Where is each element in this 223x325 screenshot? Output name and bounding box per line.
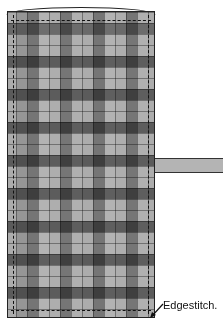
grid-line [8, 232, 154, 233]
grid-line [8, 188, 154, 189]
plaid-column-band [104, 12, 115, 317]
grid-line [8, 166, 154, 167]
grid-line [126, 12, 127, 317]
plaid-column-band [7, 12, 16, 317]
grid-line [8, 287, 154, 288]
grid-line [8, 122, 154, 123]
plaid-column-band [71, 12, 82, 317]
grid-line [8, 100, 154, 101]
grid-line [8, 276, 154, 277]
grid-line [38, 12, 39, 317]
grid-line [8, 56, 154, 57]
grid-line [8, 45, 154, 46]
grid-line [8, 111, 154, 112]
grid-line [60, 12, 61, 317]
grid-line [8, 265, 154, 266]
edgestitch-line [11, 20, 151, 21]
grid-line [8, 243, 154, 244]
grid-line [8, 177, 154, 178]
grid-line [8, 23, 154, 24]
grid-line [8, 144, 154, 145]
grid-line [8, 298, 154, 299]
grid-line [8, 210, 154, 211]
grid-line [8, 67, 154, 68]
plaid-column-band [60, 12, 71, 317]
grid-line [8, 89, 154, 90]
grid-line [8, 221, 154, 222]
grid-line [115, 12, 116, 317]
grid-line [71, 12, 72, 317]
plaid-column-band [126, 12, 137, 317]
grid-line [49, 12, 50, 317]
grid-line [27, 12, 28, 317]
plaid-column-band [137, 12, 148, 317]
plaid-column-band [93, 12, 104, 317]
plaid-column-band [82, 12, 93, 317]
plaid-column-band [16, 12, 27, 317]
strap [155, 158, 223, 173]
plaid-fabric-panel [7, 11, 155, 318]
grid-line [8, 199, 154, 200]
grid-line [8, 12, 154, 13]
edgestitch-line [148, 15, 149, 314]
grid-line [8, 133, 154, 134]
edgestitch-label: Edgestitch. [163, 299, 217, 311]
grid-line [93, 12, 94, 317]
grid-line [82, 12, 83, 317]
plaid-column-band [148, 12, 155, 317]
plaid-column-band [115, 12, 126, 317]
edgestitch-line [13, 15, 14, 314]
grid-line [16, 12, 17, 317]
edgestitch-line [11, 310, 151, 311]
plaid-column-band [49, 12, 60, 317]
grid-line [8, 155, 154, 156]
plaid-column-band [27, 12, 38, 317]
plaid-column-band [38, 12, 49, 317]
grid-line [104, 12, 105, 317]
grid-line [8, 254, 154, 255]
grid-line [137, 12, 138, 317]
grid-line [8, 78, 154, 79]
grid-line [8, 34, 154, 35]
